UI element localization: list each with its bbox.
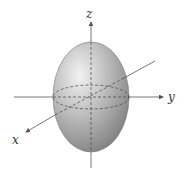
- z-axis-label: z: [85, 7, 93, 21]
- ellipsoid-diagram: z y x: [0, 0, 186, 171]
- y-axis-label: y: [167, 90, 175, 104]
- x-axis-front: [26, 115, 55, 132]
- x-axis-label: x: [12, 133, 19, 147]
- x-axis-back: [124, 61, 155, 78]
